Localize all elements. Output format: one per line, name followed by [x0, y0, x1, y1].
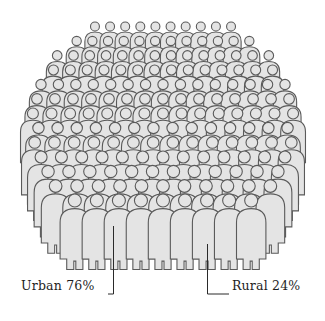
- crowd-illustration: [0, 0, 325, 321]
- urban-label: Urban 76%: [21, 278, 95, 293]
- rural-label: Rural 24%: [232, 278, 300, 293]
